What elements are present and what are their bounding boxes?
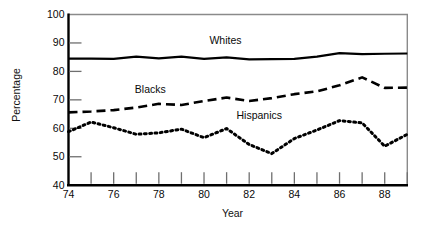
y-tick-label: 90: [0, 36, 65, 48]
y-tick-label: 70: [0, 93, 65, 105]
series-label-hispanics: Hispanics: [236, 109, 282, 121]
series-label-blacks: Blacks: [135, 83, 166, 95]
x-tick-label: 86: [320, 188, 360, 200]
y-tick-label: 80: [0, 65, 65, 77]
x-tick-label: 74: [49, 188, 89, 200]
x-tick-label: 88: [365, 188, 405, 200]
x-tick-label: 76: [94, 188, 134, 200]
series-line-blacks: [69, 77, 408, 112]
series-line-hispanics: [69, 121, 408, 154]
x-tick-label: 84: [274, 188, 314, 200]
y-tick-label: 100: [0, 8, 65, 20]
x-axis-label: Year: [222, 207, 243, 219]
y-tick-label: 50: [0, 150, 65, 162]
series-label-whites: Whites: [209, 34, 241, 46]
x-tick-label: 82: [229, 188, 269, 200]
y-tick-label: 60: [0, 122, 65, 134]
series-line-whites: [69, 53, 408, 59]
x-tick-label: 80: [184, 188, 224, 200]
data-series-group: [69, 53, 408, 153]
chart-figure: Percentage 405060708090100 7476788082848…: [0, 0, 428, 235]
x-axis-ticks: [91, 172, 407, 184]
x-tick-label: 78: [139, 188, 179, 200]
y-axis-ticks: [70, 43, 82, 157]
